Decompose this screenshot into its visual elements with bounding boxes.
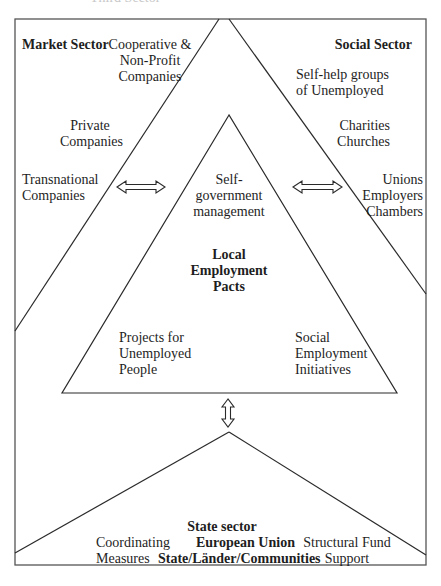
center-self-government: Self- government management xyxy=(184,172,274,220)
social-item-charities: Charities Churches xyxy=(320,118,390,150)
social-item-unions: Unions Employers Chambers xyxy=(340,172,423,220)
double-arrow-right-icon xyxy=(293,181,342,193)
market-sector-title: Market Sector xyxy=(22,37,109,53)
double-arrow-vertical-icon xyxy=(222,399,234,427)
state-item-structural-fund: Structural Fund Support xyxy=(302,535,392,567)
state-item-european-union: European Union xyxy=(196,535,295,551)
diagram-canvas: Third Sector Market Sector Cooperative &… xyxy=(0,0,441,586)
center-social-initiatives: Social Employment Initiatives xyxy=(295,330,367,378)
market-item-cooperative: Cooperative & Non-Profit Companies xyxy=(108,37,192,85)
state-sector-title: State sector xyxy=(172,519,272,535)
market-item-transnational: Transnational Companies xyxy=(22,172,98,204)
local-employment-pacts-title: Local Employment Pacts xyxy=(179,247,279,295)
social-item-self-help: Self-help groups of Unemployed xyxy=(296,67,389,99)
social-sector-title: Social Sector xyxy=(320,37,412,53)
double-arrow-left-icon xyxy=(117,181,165,193)
center-projects-unemployed: Projects for Unemployed People xyxy=(119,330,191,378)
state-item-state-laender: State/Länder/Communities xyxy=(158,551,321,567)
market-item-private: Private Companies xyxy=(60,118,120,150)
